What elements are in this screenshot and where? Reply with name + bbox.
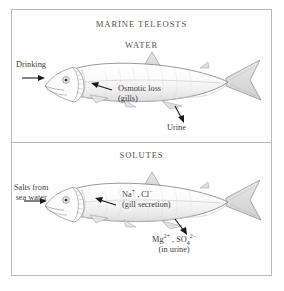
pectoral-fin (90, 215, 108, 223)
label-mgso4-formula: Mg2+ , SO42− (152, 235, 196, 245)
urine-solutes-arrow (175, 219, 187, 235)
formula-cl-charge: − (149, 188, 152, 194)
fish-pupil (65, 79, 68, 82)
pelvic-fin (124, 220, 136, 227)
formula-na: Na (122, 190, 132, 199)
label-salts-from-sea-water: Salts from sea water (14, 183, 48, 203)
mouth (45, 86, 64, 90)
label-salts-line1: Salts from (14, 183, 48, 193)
lateral-line (74, 80, 222, 83)
fish-head (45, 187, 84, 222)
fish-illustration-water (12, 10, 271, 142)
label-in-urine: Mg2+ , SO42− (in urine) (152, 235, 196, 255)
figure-title: MARINE TELEOSTS (12, 19, 271, 29)
caudal-fin (226, 180, 261, 220)
panel-solutes-heading: SOLUTES (12, 150, 271, 160)
adipose-fin (200, 182, 209, 188)
panel-solutes: SOLUTES (12, 143, 271, 275)
fish-head (45, 67, 84, 102)
urine-arrow (175, 106, 184, 123)
label-osmotic-loss: Osmotic loss (gills) (118, 84, 161, 103)
label-osmotic-loss-line1: Osmotic loss (118, 84, 161, 94)
fish-pupil (65, 199, 68, 202)
fish-eye (63, 197, 70, 204)
panel-water: MARINE TELEOSTS WATER (12, 10, 271, 142)
gill-detail (76, 190, 85, 217)
mouth (45, 206, 64, 210)
operculum (72, 187, 78, 222)
label-urine: Urine (167, 123, 186, 133)
formula-separator: , Cl (135, 190, 149, 199)
dorsal-fin (140, 52, 164, 73)
label-osmotic-loss-line2: (gills) (118, 94, 161, 104)
label-gill-secretion-line2: (gill secretion) (122, 200, 171, 210)
drinking-arrow (22, 75, 45, 81)
panel-water-heading: WATER (12, 40, 271, 50)
label-gill-secretion: Na+ , Cl− (gill secretion) (122, 190, 171, 209)
anal-fin (162, 221, 182, 229)
operculum (72, 67, 78, 102)
osmotic-loss-arrow (91, 82, 112, 90)
formula-separator-2: , SO (170, 235, 187, 244)
label-salts-line2: sea water (14, 193, 48, 203)
adipose-fin (200, 62, 209, 68)
formula-so4-charge: 2− (190, 233, 196, 239)
formula-mg: Mg (152, 235, 164, 244)
label-nacl-formula: Na+ , Cl− (122, 190, 171, 200)
label-drinking: Drinking (16, 60, 46, 70)
fish-eye (63, 77, 70, 84)
gill-secretion-arrow (95, 197, 116, 205)
figure-marine-teleosts: MARINE TELEOSTS WATER (0, 0, 284, 291)
gill-detail (76, 70, 85, 97)
pectoral-fin (90, 95, 108, 103)
label-in-urine-line2: (in urine) (152, 245, 196, 255)
caudal-fin (226, 60, 261, 100)
anal-fin (162, 101, 182, 109)
